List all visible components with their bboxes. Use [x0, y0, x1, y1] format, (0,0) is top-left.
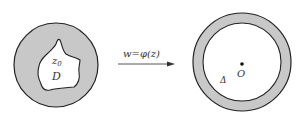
domain-d-label: D: [51, 70, 61, 83]
right-region: O Δ: [193, 13, 291, 111]
delta-label: Δ: [219, 75, 227, 85]
mapping-label: w=φ(z): [123, 48, 160, 59]
conformal-mapping-diagram: z0 D w=φ(z) O Δ: [0, 0, 308, 127]
mapping-arrow: w=φ(z): [118, 48, 175, 67]
arrowhead-icon: [167, 62, 175, 67]
left-region: z0 D: [14, 23, 98, 107]
inner-circle: [203, 23, 281, 101]
center-point: [240, 62, 244, 66]
center-o-label: O: [237, 68, 245, 79]
